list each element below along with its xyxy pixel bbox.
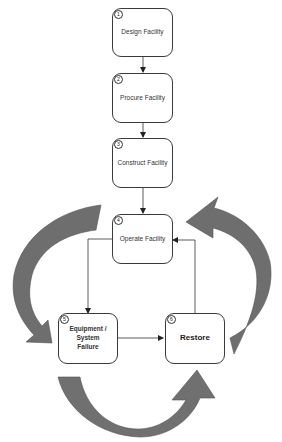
node-equipment-system-failure: 5 Equipment / System Failure bbox=[58, 313, 118, 364]
node-label: Procure Facility bbox=[120, 94, 165, 103]
node-number: 4 bbox=[114, 216, 123, 225]
node-procure-facility: 2 Procure Facility bbox=[112, 73, 173, 123]
edge-6-4 bbox=[173, 240, 195, 314]
node-operate-facility: 4 Operate Facility bbox=[112, 214, 173, 264]
node-label: Design Facility bbox=[121, 28, 163, 37]
node-number: 1 bbox=[114, 10, 123, 19]
bottom-curved-arrow-icon bbox=[58, 370, 215, 437]
node-label: Construct Facility bbox=[118, 159, 168, 168]
edge-4-5 bbox=[88, 239, 112, 313]
node-construct-facility: 3 Construct Facility bbox=[112, 138, 173, 188]
node-number: 6 bbox=[167, 315, 176, 324]
node-design-facility: 1 Design Facility bbox=[112, 8, 173, 57]
node-number: 2 bbox=[114, 75, 123, 84]
node-label: Equipment / System Failure bbox=[59, 325, 117, 351]
node-number: 5 bbox=[60, 315, 69, 324]
node-number: 3 bbox=[114, 140, 123, 149]
node-label: Restore bbox=[180, 333, 210, 344]
node-restore: 6 Restore bbox=[165, 313, 225, 364]
node-label: Operate Facility bbox=[120, 235, 166, 244]
